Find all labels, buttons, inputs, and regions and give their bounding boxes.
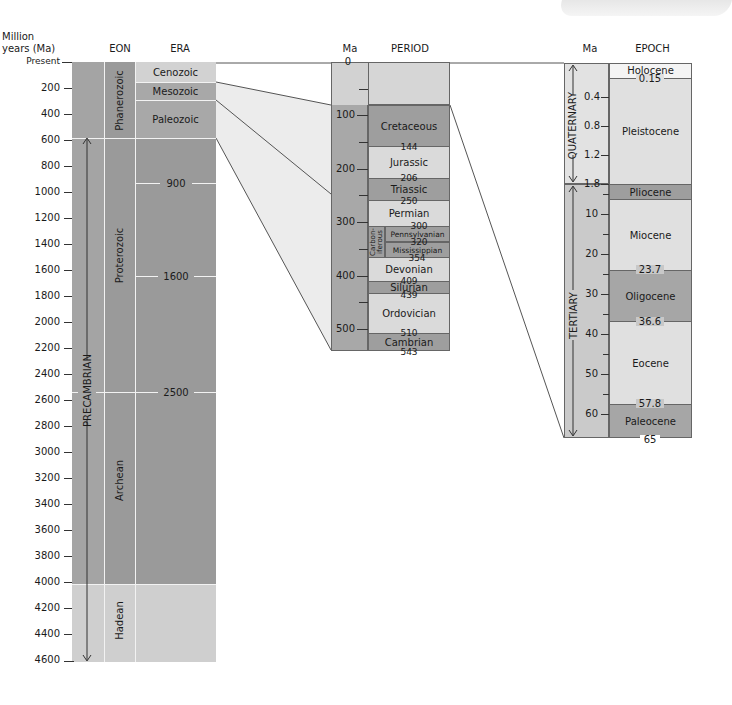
eon-hadean: Hadean	[104, 590, 135, 650]
eon-phanerozoic: Phanerozoic	[104, 62, 135, 138]
period-boundary-206: 206	[398, 174, 420, 183]
epoch-boundary-23.7: 23.7	[636, 265, 664, 274]
tick-label: Present	[0, 56, 60, 66]
period-carboniferous: Carbon- iferous	[368, 226, 385, 258]
connector-line-65-epoch	[450, 105, 564, 438]
period-tick-label: 500	[330, 323, 355, 334]
tick-label: 1600	[0, 264, 60, 275]
tick-label: 4400	[0, 628, 60, 639]
tick-label: 1200	[0, 212, 60, 223]
tick-label: 3600	[0, 524, 60, 535]
era-mesozoic: Mesozoic	[135, 82, 216, 100]
period-boundary-250: 250	[398, 197, 420, 206]
eon-archean: Archean	[104, 440, 135, 520]
tick-label: 600	[0, 134, 60, 145]
epoch-boundary-36.6: 36.6	[636, 317, 664, 326]
tick-label: 200	[0, 82, 60, 93]
period-tick-label: 300	[330, 216, 355, 227]
tick-label: 3200	[0, 472, 60, 483]
epoch-pleistocene: Pleistocene	[609, 79, 692, 184]
carboniferous-label: Carbon- iferous	[370, 228, 384, 256]
subera-tertiary: TERTIARY	[566, 290, 580, 340]
era-paleozoic: Paleozoic	[135, 100, 216, 138]
eon-archean-label: Archean	[114, 459, 125, 500]
period-tick-label: 0	[338, 56, 358, 67]
tick-label: 2800	[0, 420, 60, 431]
era-paleozoic-label: Paleozoic	[152, 114, 198, 125]
precambrian-label-wrap: PRECAMBRIAN	[78, 360, 96, 420]
epoch-miocene: Miocene	[609, 200, 692, 270]
eon-proterozoic: Proterozoic	[104, 215, 135, 295]
era-cenozoic-label: Cenozoic	[153, 67, 198, 78]
epoch-header: EPOCH	[615, 43, 690, 55]
era-mesozoic-label: Mesozoic	[153, 86, 199, 97]
divider-cenozoic-mesozoic	[135, 82, 216, 83]
tick-label: 3800	[0, 550, 60, 561]
period-axis-tickmarks	[356, 0, 368, 360]
tick-label: 400	[0, 108, 60, 119]
period-boundary-354: 354	[406, 254, 428, 263]
tick-label: 4000	[0, 576, 60, 587]
tick-label: 2200	[0, 342, 60, 353]
boundary-900-label: 900	[160, 177, 192, 189]
tick-label: 1800	[0, 290, 60, 301]
eon-proterozoic-label: Proterozoic	[114, 227, 125, 283]
divider-mesozoic-paleozoic	[135, 100, 216, 101]
epoch-axis-tickmarks	[600, 0, 610, 440]
period-tick-label: 200	[330, 163, 355, 174]
epoch-boundary-0.15: 0.15	[636, 74, 664, 83]
tick-label: 800	[0, 160, 60, 171]
period-boundary-300: 300	[408, 222, 430, 231]
period-boundary-409: 409	[398, 277, 420, 286]
connector-fill-mesozoic-paleozoic	[216, 82, 331, 350]
era-cenozoic: Cenozoic	[135, 62, 216, 82]
precambrian-label: PRECAMBRIAN	[82, 354, 93, 427]
tick-label: 3000	[0, 446, 60, 457]
period-boundary-320: 320	[408, 238, 430, 247]
eon-hadean-label: Hadean	[114, 601, 125, 640]
tick-label: 3400	[0, 498, 60, 509]
period-boundary-144: 144	[398, 143, 420, 152]
period-boundary-439: 439	[398, 291, 420, 300]
period-boundary-510: 510	[398, 329, 420, 338]
divider-eon-right	[135, 62, 136, 662]
period-cenozoic-zone	[368, 62, 450, 105]
period-cretaceous: Cretaceous	[368, 105, 450, 147]
period-tick-label: 100	[330, 109, 355, 120]
tick-label: 1000	[0, 186, 60, 197]
boundary-2500-label: 2500	[158, 386, 194, 398]
subera-quaternary: QUATERNARY	[566, 95, 580, 155]
tick-label: 4200	[0, 602, 60, 613]
epoch-pliocene: Pliocene	[609, 184, 692, 200]
boundary-1600-label: 1600	[158, 270, 194, 282]
epoch-eocene: Eocene	[609, 322, 692, 404]
period-tick-label: 400	[330, 270, 355, 281]
tick-label: 2000	[0, 316, 60, 327]
epoch-paleocene: Paleocene	[609, 404, 692, 438]
epoch-boundary-57.8: 57.8	[636, 399, 664, 408]
tick-label: 1400	[0, 238, 60, 249]
tertiary-label: TERTIARY	[568, 292, 579, 339]
main-axis-tickmarks	[62, 0, 74, 705]
quaternary-label: QUATERNARY	[568, 91, 579, 158]
epoch-oligocene: Oligocene	[609, 270, 692, 322]
tick-label: 4600	[0, 654, 60, 665]
period-boundary-543: 543	[398, 348, 420, 357]
tick-label: 2400	[0, 368, 60, 379]
divider-eon-left	[104, 62, 105, 662]
eon-phanerozoic-label: Phanerozoic	[114, 70, 125, 131]
epoch-boundary-65: 65	[640, 435, 660, 444]
tick-label: 2600	[0, 394, 60, 405]
period-header: PERIOD	[370, 43, 450, 55]
